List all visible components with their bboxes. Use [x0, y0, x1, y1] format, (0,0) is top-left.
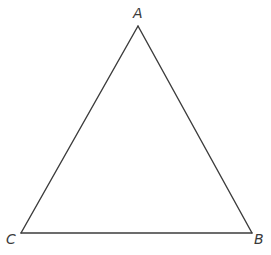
vertex-label-a: A	[132, 5, 143, 21]
triangle-diagram: A B C	[0, 0, 271, 255]
side-ab	[138, 26, 252, 233]
vertex-label-b: B	[254, 231, 264, 247]
vertex-label-c: C	[6, 231, 16, 247]
triangle-abc	[21, 26, 252, 233]
side-ca	[21, 26, 138, 233]
